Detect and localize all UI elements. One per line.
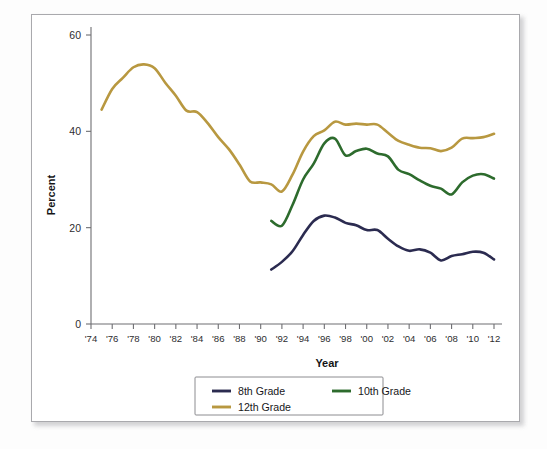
- x-tick-label: '86: [212, 333, 225, 344]
- x-tick-label: '92: [276, 333, 289, 344]
- x-axis-tick-labels: '74'76'78'80'82'84'86'88'90'92'94'96'98'…: [85, 333, 501, 344]
- chart-plot-area: 0204060 '74'76'78'80'82'84'86'88'90'92'9…: [32, 15, 519, 421]
- chart-legend: 8th Grade10th Grade12th Grade: [195, 377, 411, 415]
- x-tick-label: '90: [254, 333, 267, 344]
- x-tick-label: '96: [318, 333, 331, 344]
- data-series-group: [102, 64, 494, 269]
- y-tick-label: 60: [69, 29, 81, 41]
- x-tick-label: '76: [106, 333, 119, 344]
- x-tick-label: '94: [297, 333, 310, 344]
- series-line-12th-grade: [102, 64, 494, 191]
- x-tick-label: '08: [445, 333, 458, 344]
- x-tick-label: '80: [148, 333, 161, 344]
- legend-label-12th-grade[interactable]: 12th Grade: [238, 401, 291, 413]
- x-tick-label: '78: [127, 333, 140, 344]
- x-tick-label: '06: [424, 333, 437, 344]
- y-tick-label: 20: [69, 222, 81, 234]
- clipped-header-text: [0, 0, 547, 13]
- series-line-8th-grade: [271, 215, 494, 269]
- x-tick-label: '10: [467, 333, 480, 344]
- line-chart: 0204060 '74'76'78'80'82'84'86'88'90'92'9…: [32, 15, 519, 421]
- y-axis-ticks: [86, 35, 91, 324]
- x-axis-title: Year: [315, 357, 339, 369]
- y-axis-title: Percent: [45, 174, 57, 215]
- x-tick-label: '84: [191, 333, 204, 344]
- x-axis-ticks: [91, 324, 494, 329]
- x-tick-label: '12: [488, 333, 501, 344]
- x-tick-label: '00: [360, 333, 373, 344]
- x-tick-label: '98: [339, 333, 352, 344]
- y-axis-tick-labels: 0204060: [69, 29, 81, 330]
- y-tick-label: 40: [69, 125, 81, 137]
- legend-label-8th-grade[interactable]: 8th Grade: [238, 385, 285, 397]
- x-tick-label: '88: [233, 333, 246, 344]
- legend-label-10th-grade[interactable]: 10th Grade: [358, 385, 411, 397]
- x-tick-label: '82: [170, 333, 183, 344]
- page-background: 0204060 '74'76'78'80'82'84'86'88'90'92'9…: [0, 0, 547, 449]
- chart-card: 0204060 '74'76'78'80'82'84'86'88'90'92'9…: [31, 14, 520, 422]
- y-tick-label: 0: [75, 318, 81, 330]
- x-tick-label: '04: [403, 333, 416, 344]
- x-tick-label: '02: [382, 333, 395, 344]
- x-tick-label: '74: [85, 333, 98, 344]
